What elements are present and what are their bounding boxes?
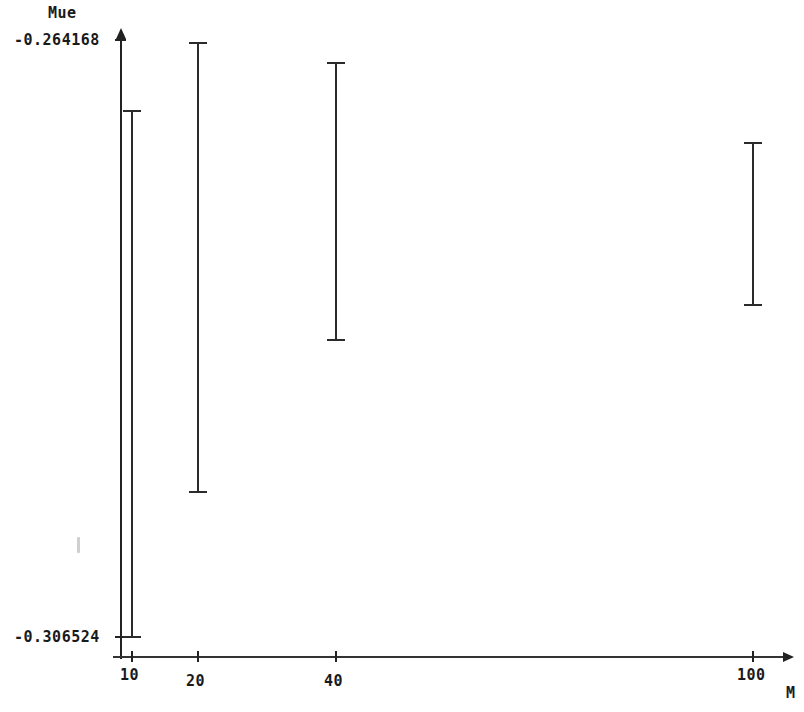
- errorbar-stem: [335, 62, 337, 340]
- x-axis-tick-20: [197, 651, 199, 662]
- errorbar-stem: [197, 42, 199, 492]
- x-axis-tick-label-20: 20: [186, 672, 205, 690]
- x-axis-line: [113, 656, 785, 658]
- y-axis-arrow-icon: [116, 28, 126, 39]
- errorbar-stem: [131, 110, 133, 637]
- errorbar-lower-cap: [327, 339, 345, 341]
- x-axis-tick-label-40: 40: [324, 672, 343, 690]
- errorbar-lower-cap: [189, 491, 207, 493]
- x-axis-tick-40: [335, 651, 337, 662]
- chart-figure: Mue -0.264168 -0.306524 10 20 40 100 M: [0, 0, 804, 712]
- x-axis-tick-label-10: 10: [120, 666, 139, 684]
- y-axis-line: [120, 38, 122, 659]
- x-axis-tick-10: [131, 651, 133, 662]
- x-axis-title: M: [786, 684, 796, 702]
- y-axis-tick-label-bottom: -0.306524: [14, 628, 100, 646]
- errorbar-stem: [752, 142, 754, 305]
- y-axis-tick-label-top: -0.264168: [14, 31, 100, 49]
- errorbar-lower-cap: [123, 636, 141, 638]
- y-axis-tick-top: [115, 39, 126, 41]
- x-axis-tick-label-100: 100: [737, 666, 766, 684]
- errorbar-lower-cap: [744, 304, 762, 306]
- scan-artifact-speck: [77, 537, 80, 553]
- x-axis-tick-100: [752, 651, 754, 662]
- y-axis-title: Mue: [48, 4, 77, 22]
- x-axis-arrow-icon: [783, 652, 794, 662]
